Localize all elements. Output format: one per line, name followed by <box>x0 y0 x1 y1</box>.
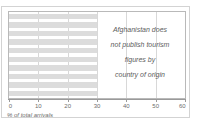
bar <box>9 31 97 36</box>
tick-mark <box>156 99 157 102</box>
tick-label: 60 <box>179 103 186 110</box>
tick-label: 30 <box>94 103 101 110</box>
bar <box>9 91 97 96</box>
bar <box>9 65 97 70</box>
bar <box>9 22 97 27</box>
tick-mark <box>126 99 127 102</box>
tick-label: 10 <box>35 103 42 110</box>
tick-label: 40 <box>123 103 130 110</box>
x-axis-title: % of total arrivals <box>7 112 53 119</box>
tick-mark <box>9 99 10 102</box>
tick-mark <box>68 99 69 102</box>
tick-label: 50 <box>152 103 159 110</box>
tick-label: 0 <box>9 103 12 110</box>
tick-mark <box>97 99 98 102</box>
bar <box>9 82 97 87</box>
tick-label: 20 <box>64 103 71 110</box>
gridline <box>97 12 98 98</box>
plot-area <box>8 11 186 99</box>
bar <box>9 14 97 19</box>
gridline <box>156 12 157 98</box>
bar <box>9 39 97 44</box>
gridline <box>126 12 127 98</box>
tick-mark <box>185 99 186 102</box>
chart-figure: 0102030405060 % of total arrivals Afghan… <box>0 0 197 124</box>
bar <box>9 74 97 79</box>
bar <box>9 57 97 62</box>
bar <box>9 48 97 53</box>
tick-mark <box>38 99 39 102</box>
